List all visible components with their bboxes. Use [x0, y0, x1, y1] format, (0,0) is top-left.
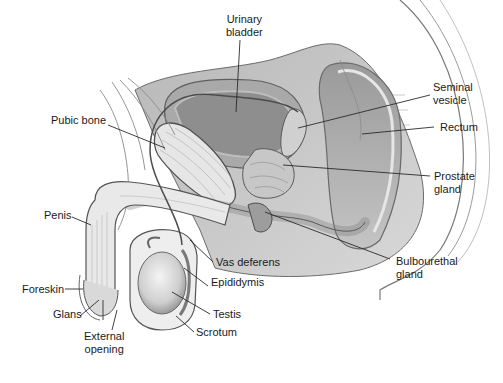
label-foreskin: Foreskin: [22, 283, 64, 296]
label-prostate-gland: Prostate gland: [434, 170, 475, 195]
label-urinary-bladder: Urinary bladder: [226, 13, 263, 38]
label-scrotum: Scrotum: [196, 326, 237, 339]
label-pubic-bone: Pubic bone: [51, 114, 106, 127]
label-external-opening: External opening: [84, 330, 124, 355]
label-bulbourethral-gland: Bulbourethal gland: [396, 255, 458, 280]
label-vas-deferens: Vas deferens: [216, 256, 280, 269]
label-epididymis: Epididymis: [211, 276, 264, 289]
label-penis: Penis: [44, 209, 72, 222]
scrotum: [130, 230, 197, 330]
anatomy-illustration: [0, 0, 503, 383]
testis: [138, 252, 186, 314]
label-testis: Testis: [213, 308, 241, 321]
label-seminal-vesicle: Seminal vesicle: [433, 81, 473, 106]
label-rectum: Rectum: [440, 121, 478, 134]
label-glans: Glans: [53, 308, 82, 321]
